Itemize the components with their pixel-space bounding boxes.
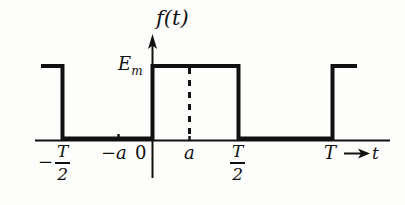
xtick-neg-a: −a [101, 144, 127, 162]
waveform-right-pulse [333, 66, 358, 140]
amplitude-label: Em [118, 55, 143, 77]
minus-sign: − [38, 151, 53, 172]
xtick-period: T [324, 144, 336, 162]
amplitude-subscript: m [131, 64, 142, 78]
fraction-numerator: T [230, 143, 245, 160]
function-plot-figure: f(t) Em − T 2 −a 0 a T 2 T t [0, 0, 405, 205]
fraction-stack: T 2 [55, 143, 70, 183]
waveform-main-pulse [153, 66, 239, 140]
x-axis-title: t [372, 145, 379, 162]
waveform-left-pulse [41, 66, 63, 140]
xtick-neg-half-period: − T 2 [38, 143, 70, 183]
fraction-stack: T 2 [230, 143, 245, 183]
y-axis-title: f(t) [156, 8, 189, 29]
xtick-half-period: T 2 [230, 143, 245, 183]
fraction-denominator: 2 [55, 166, 70, 183]
xtick-a: a [184, 144, 195, 162]
fraction-numerator: T [55, 143, 70, 160]
amplitude-symbol: E [118, 53, 131, 74]
origin-label: 0 [135, 144, 146, 162]
fraction-denominator: 2 [230, 166, 245, 183]
